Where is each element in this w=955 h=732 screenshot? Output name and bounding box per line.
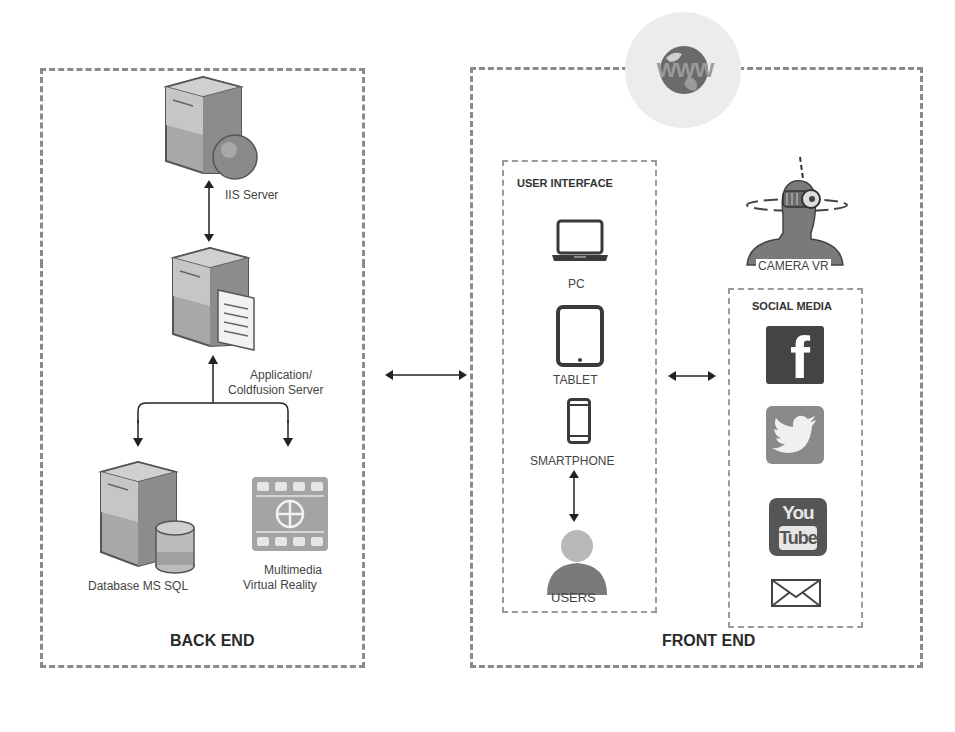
multimedia-label-1: Multimedia (264, 563, 322, 577)
smartphone-label: SMARTPHONE (530, 454, 614, 468)
twitter-bird-icon (772, 414, 818, 454)
youtube-tube-text: Tube (779, 528, 817, 549)
server-document-icon (170, 246, 260, 351)
backend-title: BACK END (170, 632, 254, 650)
youtube-you-text: You (769, 502, 827, 524)
arrow-smartphone-users (568, 470, 580, 522)
arrow-app-branch (130, 355, 300, 425)
users-label: USERS (551, 591, 596, 605)
iis-server-label: IIS Server (225, 188, 278, 202)
arrow-backend-frontend (385, 369, 467, 381)
tablet-label: TABLET (553, 373, 597, 387)
arrow-to-mm (282, 420, 294, 448)
arrow-ui-social (668, 370, 716, 382)
email-icon (771, 579, 821, 607)
tablet-icon (556, 305, 604, 367)
frontend-title: FRONT END (662, 632, 755, 650)
server-globe-icon (163, 75, 258, 180)
social-media-title: SOCIAL MEDIA (752, 300, 832, 312)
user-avatar-icon (545, 529, 609, 599)
camera-vr-label: CAMERA VR (756, 259, 831, 273)
film-vr-icon (252, 477, 330, 553)
user-interface-title: USER INTERFACE (517, 177, 613, 189)
facebook-glyph: f (790, 328, 810, 388)
pc-label: PC (568, 277, 585, 291)
www-label: WWW (650, 58, 720, 82)
smartphone-icon (567, 398, 591, 444)
arrow-iis-app (203, 180, 215, 242)
arrow-to-db (132, 420, 144, 448)
server-database-icon (98, 462, 198, 572)
multimedia-label-2: Virtual Reality (243, 578, 317, 592)
vr-headset-person-icon (745, 155, 850, 265)
database-label: Database MS SQL (88, 579, 188, 593)
laptop-icon (552, 219, 608, 263)
